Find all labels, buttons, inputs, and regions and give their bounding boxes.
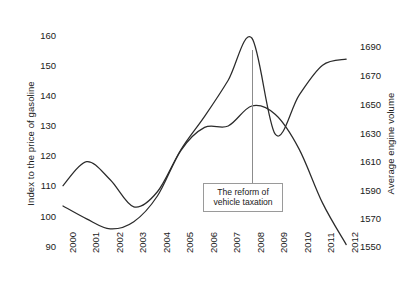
chart-container: Index to the price of gasoline Average e… [0, 0, 408, 286]
plot-area [0, 0, 408, 286]
annotation-line-2: vehicle taxation [213, 198, 272, 208]
annotation-reform-box: The reform of vehicle taxation [203, 183, 283, 212]
series-line-gasoline [63, 37, 346, 207]
annotation-leader-line [252, 50, 253, 183]
